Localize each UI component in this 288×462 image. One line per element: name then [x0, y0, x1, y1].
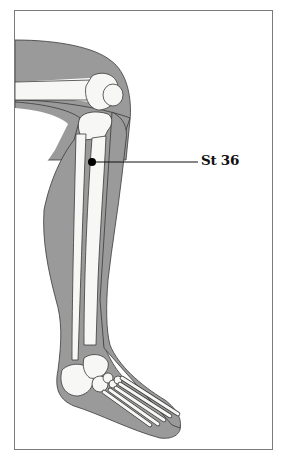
leg-illustration [0, 0, 288, 462]
acupoint-marker [88, 158, 96, 166]
patella [103, 84, 123, 106]
point-label: St 36 [201, 152, 239, 168]
